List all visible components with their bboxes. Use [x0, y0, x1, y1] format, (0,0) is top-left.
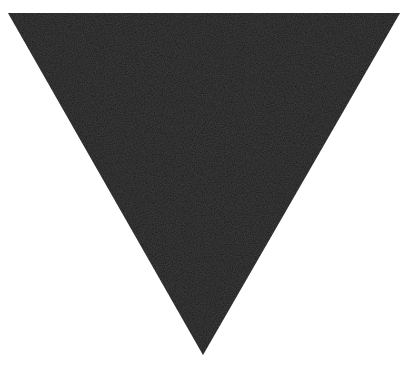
inverted-triangle-icon: [0, 0, 407, 373]
triangle-shape: [8, 13, 400, 355]
image-canvas: [0, 0, 407, 373]
